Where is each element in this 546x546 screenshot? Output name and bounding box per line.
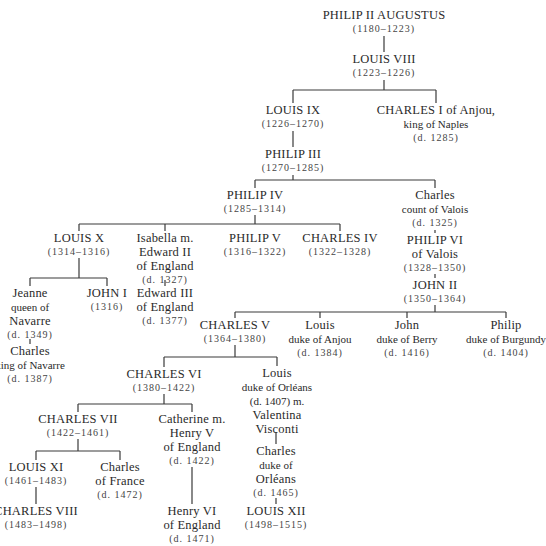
person-name-line: Charles — [402, 188, 468, 202]
person-name-line: PHILIP IV — [224, 188, 287, 202]
person-dates: (1316) — [87, 300, 127, 314]
person-node-john2: JOHN II(1350–1364) — [404, 278, 467, 306]
person-node-philipburg: Philipduke of Burgundy(d. 1404) — [466, 318, 546, 360]
person-name-line: Charles — [253, 444, 299, 458]
person-node-charlesnav: Charlesking of Navarre(d. 1387) — [0, 344, 65, 386]
person-dates: (1223–1226) — [352, 66, 415, 80]
person-name-line: Jeanne — [7, 286, 53, 300]
person-name-line: Henry VI — [163, 504, 220, 518]
person-dates: (d. 1384) — [289, 346, 352, 360]
person-dates: (d. 1327) — [136, 273, 193, 287]
person-name-line: of England — [163, 518, 220, 532]
person-dates: (1226–1270) — [262, 117, 325, 131]
person-name-line: CHARLES IV — [302, 231, 377, 245]
person-name-line: Catherine m. — [159, 412, 226, 426]
person-name-line: Isabella m. — [136, 231, 193, 245]
person-node-johnberry: Johnduke of Berry(d. 1416) — [376, 318, 437, 360]
person-dates: (d. 1377) — [136, 314, 193, 328]
person-dates: (1364–1380) — [200, 332, 271, 346]
person-node-charles8: CHARLES VIII(1483–1498) — [0, 504, 78, 532]
person-name-line: CHARLES V — [200, 318, 271, 332]
person-name-line: duke of Burgundy — [466, 332, 546, 346]
person-dates: (1498–1515) — [245, 518, 308, 532]
person-name-line: CHARLES I of Anjou, — [377, 103, 495, 117]
person-name-line: CHARLES VI — [126, 367, 201, 381]
person-dates: (1270–1285) — [262, 161, 325, 175]
person-node-philip2: PHILIP II AUGUSTUS(1180–1223) — [323, 8, 446, 36]
person-node-charlesfr: Charlesof France(d. 1472) — [95, 460, 144, 502]
person-node-charles6: CHARLES VI(1380–1422) — [126, 367, 201, 395]
person-node-louisanjou: Louisduke of Anjou(d. 1384) — [289, 318, 352, 360]
person-node-charles5: CHARLES V(1364–1380) — [200, 318, 271, 346]
person-name-line: Henry V — [159, 426, 226, 440]
person-name-line: count of Valois — [402, 202, 468, 216]
person-node-john1: JOHN I(1316) — [87, 286, 127, 314]
person-dates: (d. 1465) — [253, 486, 299, 500]
person-dates: (1180–1223) — [323, 22, 446, 36]
person-node-louis11: LOUIS XI(1461–1483) — [5, 460, 68, 488]
person-name-line: Charles — [0, 344, 65, 358]
person-name-line: JOHN II — [404, 278, 467, 292]
person-name-line: (d. 1407) m. — [242, 394, 312, 408]
person-name-line: Navarre — [7, 314, 53, 328]
person-name-line: PHILIP V — [224, 231, 287, 245]
person-dates: (d. 1285) — [377, 131, 495, 145]
person-dates: (d. 1416) — [376, 346, 437, 360]
person-dates: (1380–1422) — [126, 381, 201, 395]
person-name-line: Valentina — [242, 408, 312, 422]
person-node-philip6: PHILIP VIof Valois(1328–1350) — [404, 233, 467, 275]
person-dates: (1422–1461) — [38, 426, 117, 440]
person-dates: (1328–1350) — [404, 261, 467, 275]
person-name-line: duke of Anjou — [289, 332, 352, 346]
person-name-line: LOUIS X — [48, 231, 111, 245]
person-name-line: PHILIP VI — [404, 233, 467, 247]
person-node-catherine: Catherine m.Henry Vof England(d. 1422) — [159, 412, 226, 468]
person-name-line: John — [376, 318, 437, 332]
person-dates: (d. 1471) — [163, 532, 220, 546]
person-name-line: Charles — [95, 460, 144, 474]
person-name-line: of England — [136, 259, 193, 273]
person-name-line: duke of Berry — [376, 332, 437, 346]
person-name-line: LOUIS IX — [262, 103, 325, 117]
person-dates: (d. 1349) — [7, 328, 53, 342]
person-dates: (d. 1387) — [0, 372, 65, 386]
person-name-line: of Valois — [404, 247, 467, 261]
person-node-louis8: LOUIS VIII(1223–1226) — [352, 52, 415, 80]
person-dates: (d. 1325) — [402, 216, 468, 230]
person-node-isabella: Isabella m.Edward IIof England(d. 1327) — [136, 231, 193, 287]
person-name-line: LOUIS VIII — [352, 52, 415, 66]
person-dates: (1350–1364) — [404, 292, 467, 306]
person-name-line: king of Naples — [377, 117, 495, 131]
person-name-line: queen of — [7, 300, 53, 314]
person-node-philip5: PHILIP V(1316–1322) — [224, 231, 287, 259]
person-dates: (1461–1483) — [5, 474, 68, 488]
person-node-louis12: LOUIS XII(1498–1515) — [245, 504, 308, 532]
person-dates: (1483–1498) — [0, 518, 78, 532]
person-node-louis9: LOUIS IX(1226–1270) — [262, 103, 325, 131]
person-name-line: king of Navarre — [0, 358, 65, 372]
person-node-philip3: PHILIP III(1270–1285) — [262, 147, 325, 175]
person-name-line: Philip — [466, 318, 546, 332]
person-name-line: Visconti — [242, 422, 312, 436]
person-name-line: of England — [136, 300, 193, 314]
person-name-line: PHILIP III — [262, 147, 325, 161]
person-dates: (d. 1404) — [466, 346, 546, 360]
person-node-philip4: PHILIP IV(1285–1314) — [224, 188, 287, 216]
person-name-line: PHILIP II AUGUSTUS — [323, 8, 446, 22]
person-name-line: duke of — [253, 458, 299, 472]
person-dates: (1322–1328) — [302, 245, 377, 259]
person-dates: (1314–1316) — [48, 245, 111, 259]
person-node-charlesorl: Charlesduke ofOrléans(d. 1465) — [253, 444, 299, 500]
person-node-jeanne: Jeannequeen ofNavarre(d. 1349) — [7, 286, 53, 342]
person-node-louis10: LOUIS X(1314–1316) — [48, 231, 111, 259]
person-name-line: of France — [95, 474, 144, 488]
person-name-line: of England — [159, 440, 226, 454]
person-name-line: CHARLES VIII — [0, 504, 78, 518]
person-name-line: JOHN I — [87, 286, 127, 300]
person-name-line: Louis — [289, 318, 352, 332]
person-node-charlesv: Charlescount of Valois(d. 1325) — [402, 188, 468, 230]
person-dates: (1316–1322) — [224, 245, 287, 259]
person-dates: (d. 1422) — [159, 454, 226, 468]
person-node-charles1: CHARLES I of Anjou,king of Naples(d. 128… — [377, 103, 495, 145]
person-name-line: LOUIS XI — [5, 460, 68, 474]
